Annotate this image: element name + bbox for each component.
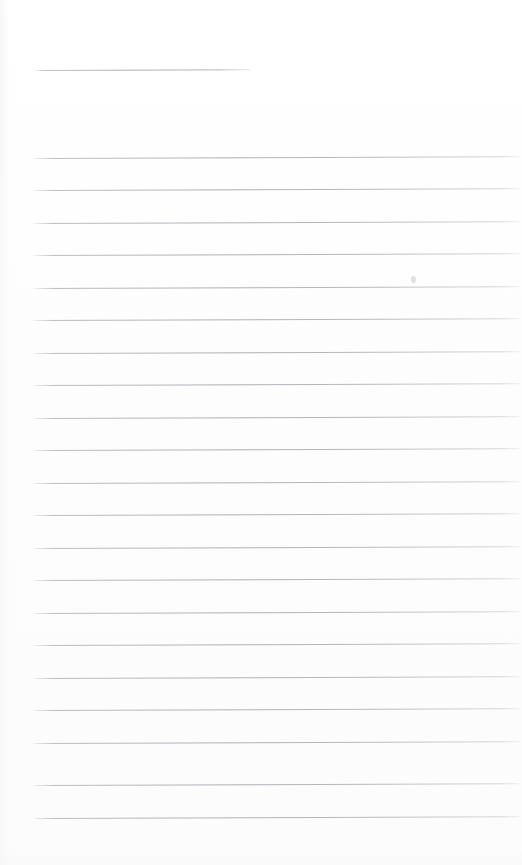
scanned-page bbox=[0, 0, 522, 865]
paper-surface bbox=[0, 0, 522, 865]
scan-speck-artifact bbox=[411, 276, 416, 283]
scan-left-edge-shading bbox=[0, 0, 10, 865]
scan-bottom-edge-shading bbox=[0, 849, 522, 865]
